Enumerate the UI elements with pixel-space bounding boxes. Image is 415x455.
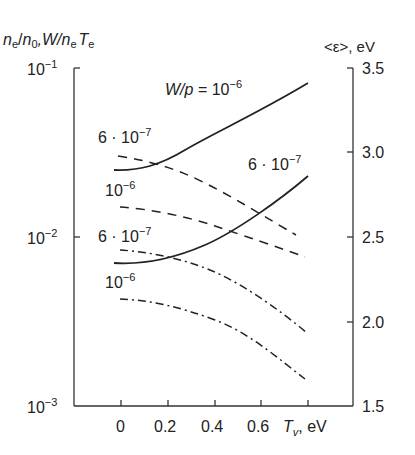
x-tick-label-0: 0	[116, 418, 125, 435]
y-left-tick-label-1e-2: 10−2	[27, 227, 57, 247]
y-right-title: <ε>, eV	[324, 38, 375, 55]
y-left-tick-label-1e-1: 10−1	[27, 58, 57, 78]
annotation-wp-1e-6: W/p = 10−6	[165, 78, 242, 98]
x-tick-label-0.2: 0.2	[154, 418, 176, 435]
y-right-tick-label-3.0: 3.0	[362, 144, 384, 161]
y-left-title: ne/n0,W/neTe	[3, 31, 94, 50]
annotation-dashed-1e-6: 10−6	[105, 179, 135, 199]
x-tick-label-0.4: 0.4	[201, 418, 223, 435]
solid-curve-wp-6e-7	[114, 176, 308, 263]
dashdot-curve-wp-1e-6	[120, 299, 305, 379]
y-right-tick-label-2.5: 2.5	[362, 229, 384, 246]
y-right-tick-label-2.0: 2.0	[362, 314, 384, 331]
y-left-tick-label-1e-3: 10−3	[27, 396, 57, 416]
y-right-tick-label-3.5: 3.5	[362, 60, 384, 77]
x-axis-title: Tv, eV	[283, 418, 327, 438]
annotation-dashdot-1e-6: 10−6	[105, 271, 135, 291]
y-right-tick-label-1.5: 1.5	[362, 398, 384, 415]
annotation-solid-6e-7: 6 · 10−7	[248, 153, 301, 173]
annotation-dashdot-6e-7: 6 · 10−7	[98, 225, 151, 245]
x-tick-label-0.6: 0.6	[247, 418, 269, 435]
chart: ne/n0,W/neTe <ε>, eV 10−1 10−2 10−3 3.5 …	[0, 0, 415, 455]
annotation-dashed-6e-7: 6 · 10−7	[98, 126, 151, 146]
